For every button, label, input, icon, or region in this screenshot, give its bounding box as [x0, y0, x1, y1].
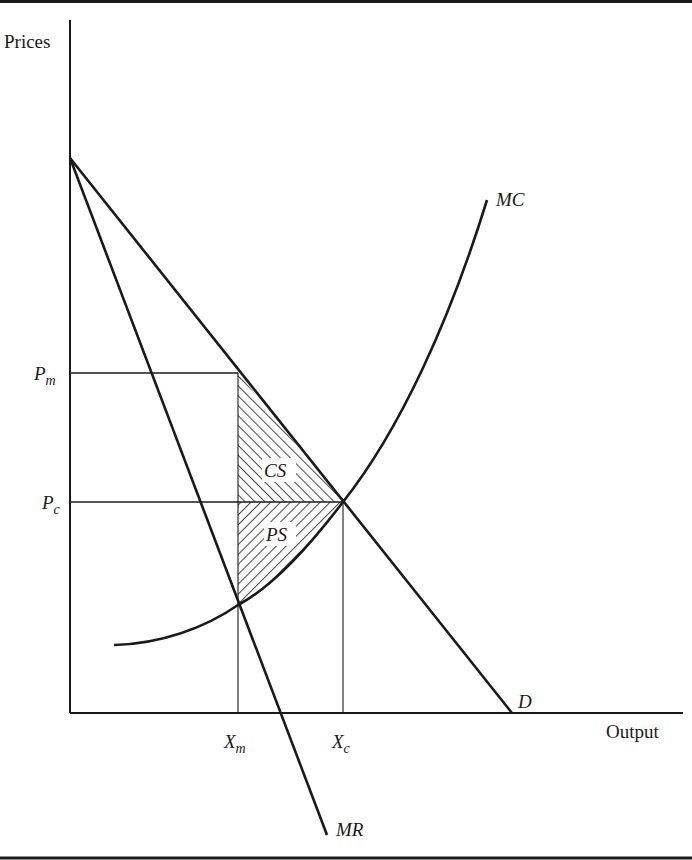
mr-label: MR: [335, 819, 364, 840]
pm-label: Pm: [33, 363, 56, 388]
xc-label: Xc: [331, 731, 351, 756]
y-axis-label: Prices: [4, 31, 50, 52]
demand-label: D: [517, 691, 532, 712]
ps-label: PS: [265, 524, 288, 545]
cs-label: CS: [264, 460, 287, 481]
mc-label: MC: [495, 189, 525, 210]
demand-curve: [70, 158, 512, 713]
producer-surplus-region: [238, 502, 343, 605]
diagram-canvas: Prices Output Pm Pc Xm Xc MC D MR CS PS: [0, 0, 692, 860]
pc-label: Pc: [41, 492, 61, 517]
xm-label: Xm: [223, 731, 246, 756]
x-axis-label: Output: [606, 721, 660, 742]
